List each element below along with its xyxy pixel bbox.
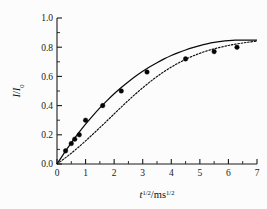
- data-point: [77, 133, 82, 138]
- data-point: [72, 137, 77, 142]
- data-point: [83, 118, 88, 123]
- data-point: [212, 49, 217, 54]
- x-tick-label: 2: [112, 168, 117, 178]
- data-point: [235, 45, 240, 50]
- scatter-plot: 01234567 0.00.20.40.60.81.0 t1/2/ms1/2 I…: [0, 0, 267, 209]
- data-point: [100, 103, 105, 108]
- data-point: [145, 70, 150, 75]
- fit-curve-dotted: [57, 41, 257, 164]
- x-axis-tick-labels: 01234567: [55, 168, 260, 178]
- y-tick-label: 0.8: [41, 43, 53, 53]
- y-tick-label: 0.6: [41, 72, 53, 82]
- data-point: [183, 57, 188, 62]
- y-tick-label: 1.0: [41, 13, 53, 23]
- x-axis-label: t1/2/ms1/2: [140, 189, 175, 201]
- data-point: [119, 89, 124, 94]
- x-tick-label: 6: [226, 168, 231, 178]
- x-tick-label: 4: [169, 168, 174, 178]
- x-tick-label: 5: [197, 168, 202, 178]
- x-tick-label: 0: [55, 168, 60, 178]
- x-tick-label: 1: [83, 168, 88, 178]
- y-axis-tick-labels: 0.00.20.40.60.81.0: [41, 13, 53, 169]
- axes-group: [57, 18, 257, 164]
- x-axis-ticks: [57, 159, 257, 164]
- y-tick-label: 0.2: [41, 130, 53, 140]
- data-point: [69, 141, 74, 146]
- y-tick-label: 0.4: [41, 101, 53, 111]
- figure-container: 01234567 0.00.20.40.60.81.0 t1/2/ms1/2 I…: [0, 0, 267, 209]
- fit-curve-solid: [57, 40, 257, 164]
- x-tick-label: 3: [140, 168, 145, 178]
- x-tick-label: 7: [255, 168, 260, 178]
- y-axis-label: I/I0: [11, 84, 25, 99]
- data-point: [63, 149, 68, 154]
- y-tick-label: 0.0: [41, 159, 53, 169]
- y-axis-ticks: [57, 18, 62, 164]
